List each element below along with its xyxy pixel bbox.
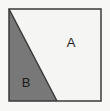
shaded-square-diagram: A B [0,0,110,111]
region-b-label: B [22,75,31,90]
figure-container: A B [0,0,110,111]
region-a-label: A [67,35,76,50]
